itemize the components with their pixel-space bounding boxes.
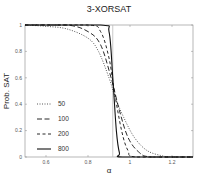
y-axis-label: Prob. SAT bbox=[2, 73, 11, 109]
legend-label: 200 bbox=[58, 130, 69, 137]
plot-axes: 0.60.811.200.20.40.60.81 bbox=[15, 22, 193, 165]
x-tick-label: 0.8 bbox=[85, 159, 92, 165]
x-tick-label: 1 bbox=[129, 159, 132, 165]
legend: 50100200800 bbox=[37, 100, 69, 152]
series-line-50 bbox=[25, 25, 193, 157]
chart-title: 3-XORSAT bbox=[87, 4, 132, 14]
y-tick-label: 1 bbox=[19, 22, 22, 28]
y-tick-label: 0.6 bbox=[15, 75, 22, 81]
plot-series bbox=[25, 25, 193, 157]
y-tick-label: 0.2 bbox=[15, 127, 22, 133]
chart: 3-XORSAT 0.60.811.200.20.40.60.81 α Prob… bbox=[0, 0, 204, 176]
legend-label: 100 bbox=[58, 115, 69, 122]
y-tick-label: 0 bbox=[19, 154, 22, 160]
legend-label: 800 bbox=[58, 145, 69, 152]
series-line-100 bbox=[25, 25, 193, 157]
x-tick-label: 0.6 bbox=[43, 159, 50, 165]
legend-label: 50 bbox=[58, 100, 66, 107]
series-line-800 bbox=[25, 25, 193, 157]
series-line-200 bbox=[25, 25, 193, 157]
plot-frame bbox=[25, 25, 193, 157]
x-axis-label: α bbox=[107, 166, 112, 175]
y-tick-label: 0.8 bbox=[15, 48, 22, 54]
y-tick-label: 0.4 bbox=[15, 101, 22, 107]
x-tick-label: 1.2 bbox=[169, 159, 176, 165]
